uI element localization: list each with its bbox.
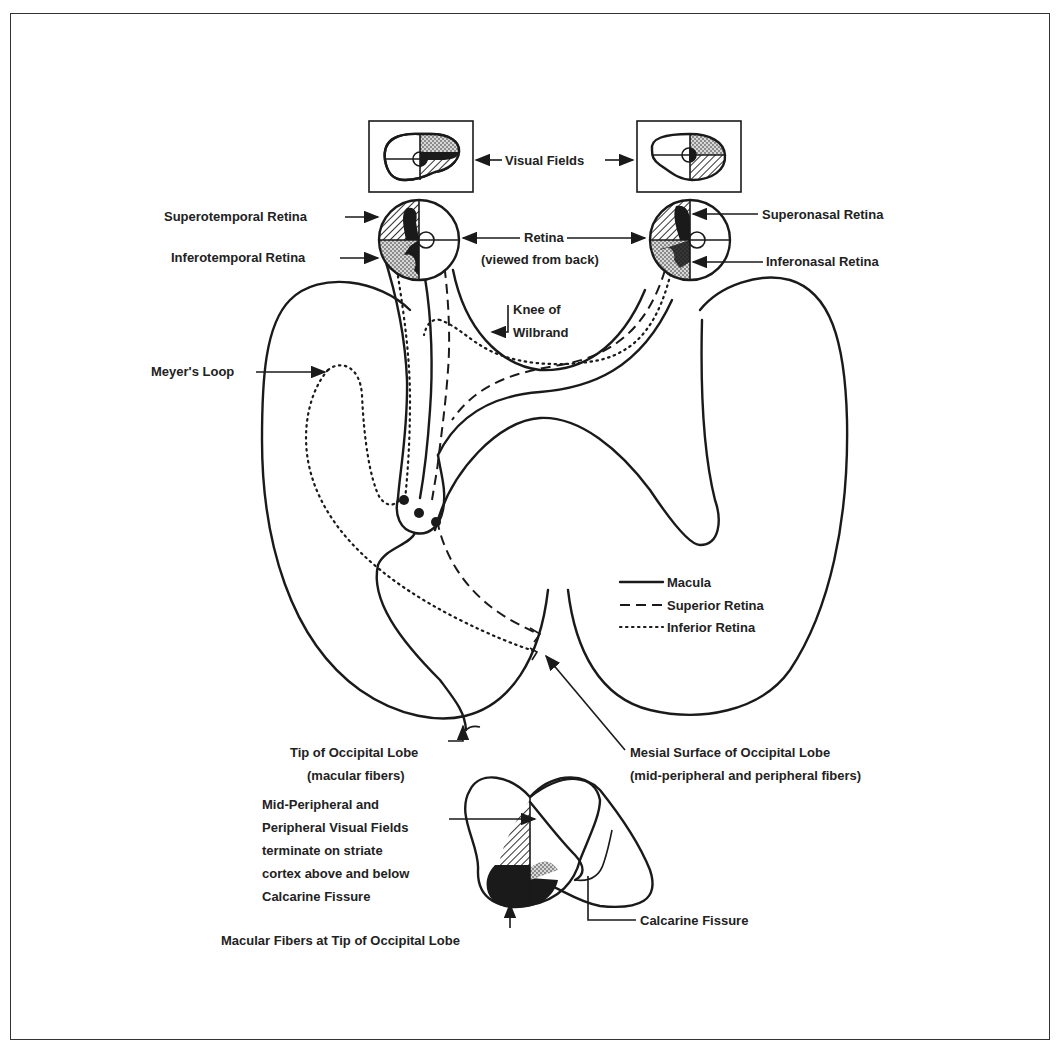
legend: Macula Superior Retina Inferior Retina	[620, 575, 765, 635]
label-knee-of: Knee of	[513, 302, 561, 317]
midbrain-region	[435, 320, 719, 545]
label-midperipheral-4: cortex above and below	[262, 866, 410, 881]
label-superonasal-retina: Superonasal Retina	[762, 207, 884, 222]
label-macular-fibers-sub: (macular fibers)	[307, 768, 405, 783]
label-midperipheral-1: Mid-Peripheral and	[262, 797, 379, 812]
visual-field-right	[637, 121, 741, 192]
label-meyers-loop: Meyer's Loop	[151, 364, 234, 379]
retina-right	[650, 200, 730, 280]
legend-superior-retina: Superior Retina	[667, 598, 765, 613]
label-tip-of-occipital-lobe: Tip of Occipital Lobe	[290, 745, 418, 760]
visual-field-left	[369, 121, 473, 192]
label-mesial-surface: Mesial Surface of Occipital Lobe	[630, 745, 830, 760]
label-superotemporal-retina: Superotemporal Retina	[164, 209, 308, 224]
label-wilbrand: Wilbrand	[513, 325, 569, 340]
label-inferonasal-retina: Inferonasal Retina	[766, 254, 879, 269]
retina-left	[379, 200, 459, 280]
label-macular-fibers-at-tip: Macular Fibers at Tip of Occipital Lobe	[221, 933, 460, 948]
legend-inferior-retina: Inferior Retina	[667, 620, 756, 635]
label-midperipheral-5: Calcarine Fissure	[262, 889, 370, 904]
label-inferotemporal-retina: Inferotemporal Retina	[171, 250, 306, 265]
label-visual-fields: Visual Fields	[505, 153, 584, 168]
visual-pathway-diagram: Macula Superior Retina Inferior Retina	[0, 0, 1064, 1060]
occipital-cross-section	[465, 777, 652, 908]
label-mesial-surface-sub: (mid-peripheral and peripheral fibers)	[630, 768, 861, 783]
label-retina-viewed-from-back: (viewed from back)	[481, 252, 599, 267]
label-calcarine-fissure: Calcarine Fissure	[640, 913, 748, 928]
label-midperipheral-3: terminate on striate	[262, 843, 383, 858]
label-retina: Retina	[524, 230, 565, 245]
legend-macula: Macula	[667, 575, 712, 590]
synapse-terminals	[399, 495, 540, 730]
label-midperipheral-2: Peripheral Visual Fields	[262, 820, 408, 835]
